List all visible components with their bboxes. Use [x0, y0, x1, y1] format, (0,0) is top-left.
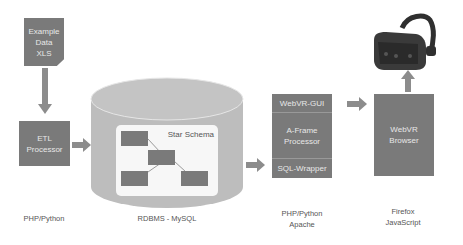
- arrow-right-icon: [246, 158, 265, 172]
- webvr-browser-box: WebVR Browser: [374, 94, 434, 176]
- etl-processor-box: ETL Processor: [19, 121, 70, 166]
- star-schema-diagram: [116, 125, 218, 196]
- server-tech-line-2: Apache: [271, 219, 333, 230]
- arrow-right-icon: [347, 97, 367, 111]
- etl-tech-line-1: PHP/Python: [14, 213, 74, 224]
- arrow-down-icon: [38, 68, 52, 114]
- server-stack: WebVR-GUI A-Frame Processor SQL-Wrapper: [272, 94, 332, 178]
- aframe-line-2: Processor: [284, 136, 320, 147]
- browser-tech-line-2: JavaScript: [372, 217, 434, 228]
- etl-line-1: ETL: [37, 133, 52, 144]
- server-tech-label: PHP/Python Apache: [271, 208, 333, 230]
- browser-tech-line-1: Firefox: [372, 206, 434, 217]
- doc-line-3: XLS: [36, 48, 51, 59]
- arrow-up-icon: [401, 70, 415, 92]
- webvr-gui-section: WebVR-GUI: [272, 94, 332, 113]
- webvr-gui-label: WebVR-GUI: [280, 98, 324, 109]
- server-tech-line-1: PHP/Python: [271, 208, 333, 219]
- doc-line-2: Data: [36, 37, 53, 48]
- star-schema-panel: Star Schema: [116, 125, 218, 196]
- doc-line-1: Example: [28, 26, 59, 37]
- example-data-document: Example Data XLS: [24, 18, 64, 66]
- sql-wrapper-section: SQL-Wrapper: [272, 159, 332, 178]
- browser-line-1: WebVR: [390, 124, 417, 135]
- etl-line-2: Processor: [26, 144, 62, 155]
- vr-headset-icon: [370, 10, 440, 70]
- database-tech-line-1: RDBMS - MySQL: [127, 213, 207, 224]
- database-tech-label: RDBMS - MySQL: [127, 213, 207, 224]
- aframe-processor-section: A-Frame Processor: [272, 113, 332, 159]
- arrow-right-icon: [72, 138, 91, 152]
- etl-tech-label: PHP/Python: [14, 213, 74, 224]
- browser-line-2: Browser: [389, 135, 418, 146]
- browser-tech-label: Firefox JavaScript: [372, 206, 434, 228]
- sql-wrapper-label: SQL-Wrapper: [277, 163, 326, 174]
- aframe-line-1: A-Frame: [286, 125, 317, 136]
